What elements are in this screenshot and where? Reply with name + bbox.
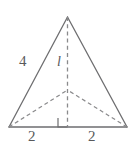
geometry-figure: 4 l 2 2	[0, 0, 135, 146]
right-angle-marker-icon	[58, 118, 68, 127]
altitude-length-label: l	[57, 55, 61, 69]
right-slant-edge	[68, 17, 128, 127]
left-interior-dashed-line	[9, 90, 68, 127]
triangle-diagram-svg	[0, 0, 135, 146]
base-right-segment-label: 2	[88, 129, 96, 144]
base-left-segment-label: 2	[28, 129, 36, 144]
slant-side-length-label: 4	[19, 54, 27, 69]
right-interior-dashed-line	[68, 90, 128, 127]
left-slant-edge	[9, 17, 68, 127]
